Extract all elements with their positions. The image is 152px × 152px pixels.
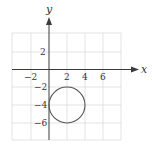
y-tick-label: 2: [40, 47, 46, 57]
x-tick-label: −2: [24, 72, 37, 82]
y-tick-label: −2: [34, 82, 47, 92]
x-tick-label: 6: [100, 72, 106, 82]
x-axis-arrow-icon: [131, 67, 139, 73]
y-tick-label: −4: [34, 100, 48, 110]
y-tick-label: −6: [34, 118, 48, 128]
x-tick-label: 2: [64, 72, 70, 82]
x-tick-label: 4: [82, 72, 88, 82]
y-axis-label: y: [45, 3, 53, 16]
coordinate-plane: x y −2 2 4 6 2 −2 −4 −6: [0, 0, 152, 152]
y-axis-arrow-icon: [46, 17, 52, 25]
x-axis-label: x: [141, 63, 148, 76]
